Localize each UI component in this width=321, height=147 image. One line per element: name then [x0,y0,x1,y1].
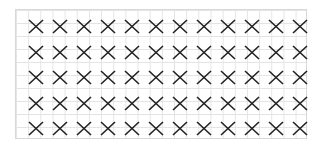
board-cell[interactable] [242,91,266,117]
x-mark-icon [244,70,260,85]
x-mark-icon [148,121,164,136]
board-cell[interactable] [50,116,74,142]
board-cell[interactable] [146,40,170,66]
board-cell[interactable] [290,91,314,117]
x-mark-icon [220,96,236,111]
board-cell[interactable] [98,14,122,40]
board-cell[interactable] [242,65,266,91]
x-mark-icon [220,19,236,34]
board-cell[interactable] [266,91,290,117]
board-cell[interactable] [98,116,122,142]
board-cell[interactable] [194,91,218,117]
board-cell[interactable] [194,116,218,142]
board-cell[interactable] [170,14,194,40]
x-mark-icon [52,45,68,60]
board-cell[interactable] [194,14,218,40]
x-mark-icon [28,70,44,85]
board-cell[interactable] [98,65,122,91]
board-cell[interactable] [98,91,122,117]
board-cell[interactable] [194,40,218,66]
board-cell[interactable] [194,65,218,91]
board-cell[interactable] [146,65,170,91]
board-cell[interactable] [266,116,290,142]
mark-grid [26,14,314,142]
x-mark-icon [196,70,212,85]
x-mark-icon [268,19,284,34]
board-cell[interactable] [146,14,170,40]
x-mark-icon [244,96,260,111]
board-cell[interactable] [170,65,194,91]
board-cell[interactable] [98,40,122,66]
x-mark-icon [52,96,68,111]
board-cell[interactable] [74,14,98,40]
board-cell[interactable] [122,91,146,117]
board-cell[interactable] [242,116,266,142]
x-mark-icon [292,19,308,34]
board-cell[interactable] [122,65,146,91]
x-mark-icon [268,70,284,85]
board-cell[interactable] [26,65,50,91]
board-cell[interactable] [170,116,194,142]
board-cell[interactable] [218,40,242,66]
x-mark-icon [100,45,116,60]
board-cell[interactable] [146,116,170,142]
x-mark-icon [28,45,44,60]
board-cell[interactable] [218,14,242,40]
x-mark-icon [76,19,92,34]
board-cell[interactable] [74,116,98,142]
x-mark-icon [172,121,188,136]
board-cell[interactable] [122,40,146,66]
board-cell[interactable] [146,91,170,117]
board-cell[interactable] [74,40,98,66]
board-cell[interactable] [26,116,50,142]
x-mark-icon [76,70,92,85]
board-cell[interactable] [290,116,314,142]
x-mark-icon [268,121,284,136]
board-cell[interactable] [266,65,290,91]
x-mark-icon [220,121,236,136]
board-cell[interactable] [218,65,242,91]
board-cell[interactable] [290,65,314,91]
board-cell[interactable] [74,91,98,117]
x-mark-icon [268,45,284,60]
board-cell[interactable] [170,40,194,66]
x-mark-icon [292,70,308,85]
board-cell[interactable] [26,91,50,117]
x-mark-icon [244,121,260,136]
x-mark-icon [52,121,68,136]
x-mark-icon [148,96,164,111]
board-cell[interactable] [74,65,98,91]
x-mark-icon [196,121,212,136]
x-mark-icon [148,70,164,85]
x-mark-icon [292,96,308,111]
board-cell[interactable] [290,14,314,40]
x-mark-icon [124,70,140,85]
board-cell[interactable] [266,14,290,40]
x-mark-icon [76,96,92,111]
x-mark-icon [100,121,116,136]
board-cell[interactable] [50,91,74,117]
x-mark-icon [244,19,260,34]
x-mark-icon [28,96,44,111]
board-cell[interactable] [266,40,290,66]
board-cell[interactable] [122,116,146,142]
x-mark-icon [220,45,236,60]
x-mark-icon [124,121,140,136]
x-mark-icon [100,96,116,111]
board-cell[interactable] [50,14,74,40]
board-cell[interactable] [218,91,242,117]
board-cell[interactable] [26,40,50,66]
x-mark-icon [172,45,188,60]
x-mark-icon [268,96,284,111]
board-cell[interactable] [170,91,194,117]
board-cell[interactable] [50,65,74,91]
x-mark-icon [172,70,188,85]
board-cell[interactable] [50,40,74,66]
x-mark-icon [100,19,116,34]
board-cell[interactable] [290,40,314,66]
board-cell[interactable] [26,14,50,40]
board-cell[interactable] [122,14,146,40]
board-cell[interactable] [218,116,242,142]
board-cell[interactable] [242,14,266,40]
board-cell[interactable] [242,40,266,66]
